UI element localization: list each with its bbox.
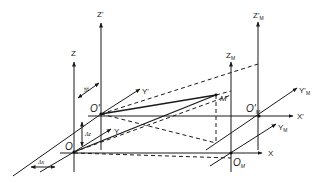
y-axis: [74, 129, 111, 152]
point-m: [215, 94, 218, 97]
point-o-prime: [99, 112, 102, 115]
label-delta-y: Δy: [81, 85, 91, 94]
delta-x-guide: [40, 152, 74, 172]
label-y: Y: [114, 127, 120, 136]
label-ym-prime: Y'M: [299, 86, 310, 96]
point-o: [72, 150, 75, 153]
label-x-prime: X': [297, 112, 304, 121]
label-om: OM: [233, 157, 246, 169]
label-o-prime: O': [90, 103, 101, 114]
dashed-o-to-om: [74, 153, 231, 158]
label-delta-x: Δx: [37, 159, 45, 165]
label-o: O: [65, 141, 73, 152]
point-om: [229, 151, 232, 154]
label-zm-prime: Z'M: [253, 11, 264, 21]
y-base-diagonal: [13, 114, 101, 176]
label-point-m: M: [220, 94, 227, 103]
label-ym: YM: [278, 123, 288, 133]
ym-axis: [210, 124, 276, 166]
label-z-prime: Z': [97, 10, 104, 19]
label-zm: ZM: [226, 51, 235, 61]
label-x: X: [268, 149, 274, 158]
coordinate-translation-diagram: Z Z' ZM Z'M Y Y' YM Y'M X X' O O' OM O'M…: [0, 0, 325, 183]
dashed-oprime-to-zm-prime: [101, 64, 258, 114]
label-z: Z: [71, 49, 76, 58]
label-delta-z: Δz: [84, 131, 92, 137]
label-y-prime: Y': [142, 87, 149, 96]
vector-oprime-to-m: [101, 95, 216, 114]
